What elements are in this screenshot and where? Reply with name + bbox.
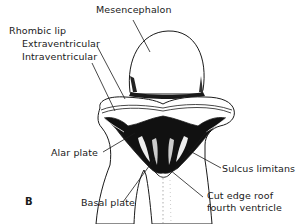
panel-letter: B	[25, 196, 33, 207]
label-basal-plate: Basal plate	[81, 197, 135, 208]
mesencephalon-shape	[129, 31, 205, 99]
label-cut-edge-line1: Cut edge roof	[207, 190, 273, 201]
label-intraventricular: Intraventricular	[22, 51, 97, 62]
label-alar-plate: Alar plate	[51, 147, 98, 158]
label-mesencephalon: Mesencephalon	[96, 4, 172, 15]
anatomical-diagram: Mesencephalon Rhombic lip Extraventricul…	[0, 0, 297, 224]
label-rhombic-lip: Rhombic lip	[9, 25, 66, 36]
label-sulcus-limitans: Sulcus limitans	[222, 163, 295, 174]
label-extraventricular: Extraventricular	[22, 38, 100, 49]
label-cut-edge-line2: fourth ventricle	[207, 202, 282, 213]
